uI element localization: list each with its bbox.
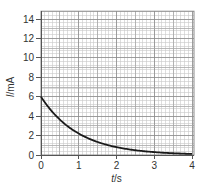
axes [40, 11, 194, 156]
y-axis-ticks: 02468101214 [23, 14, 41, 161]
chart: 02468101214 01234 t/s I/mA [0, 0, 205, 192]
y-axis-label: I/mA [5, 76, 16, 97]
x-axis-label-unit: /s [114, 173, 122, 184]
x-tick-label: 1 [76, 160, 82, 171]
y-tick-label: 0 [28, 150, 34, 161]
y-tick-label: 6 [28, 91, 34, 102]
y-tick-label: 2 [28, 130, 34, 141]
x-tick-label: 2 [114, 160, 120, 171]
y-tick-label: 4 [28, 111, 34, 122]
x-axis-label: t/s [111, 173, 122, 184]
x-tick-label: 0 [38, 160, 44, 171]
y-tick-label: 12 [23, 33, 35, 44]
y-axis-label-unit: /mA [5, 76, 16, 94]
grid-minor-lines [41, 11, 194, 155]
y-tick-label: 10 [23, 52, 35, 63]
x-axis-ticks: 01234 [38, 155, 195, 171]
y-tick-label: 14 [23, 14, 35, 25]
x-tick-label: 4 [189, 160, 195, 171]
y-tick-label: 8 [28, 72, 34, 83]
x-tick-label: 3 [151, 160, 157, 171]
